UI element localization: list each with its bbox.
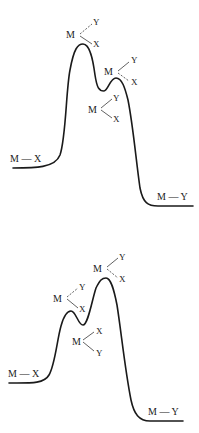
reaction-coordinate-curve-1 [13, 44, 193, 206]
product-label-2: M — Y [148, 406, 179, 417]
reactant-label-2: M — X [8, 368, 40, 379]
ts2b-bond-upper [107, 258, 118, 267]
ts2-upper-atom: Y [131, 55, 138, 65]
int-lower-atom: X [113, 114, 120, 124]
int-upper-atom: Y [113, 93, 120, 103]
intb-bond-upper [83, 332, 94, 340]
ts1-metal: M [66, 29, 75, 40]
energy-profile-2: M — X M — Y M Y X M Y X M X Y [8, 252, 183, 421]
ts2b-bond-lower [107, 269, 118, 278]
ts1-upper-atom: Y [93, 17, 100, 27]
energy-profile-1: M — X M — Y M Y X M Y X M Y X [10, 17, 193, 206]
ts1-bond-lower [80, 36, 92, 44]
intermediate-label-2: M X Y [72, 326, 103, 358]
intermediate-label: M Y X [88, 93, 120, 124]
intb-metal: M [72, 336, 81, 347]
reactant-label-1: M — X [10, 153, 42, 164]
product-label-1: M — Y [157, 191, 188, 202]
ts1b-metal: M [53, 293, 62, 304]
intb-upper-atom: X [96, 326, 103, 336]
ts2-lower-atom: X [131, 77, 138, 87]
ts2b-metal: M [93, 263, 102, 274]
ts1b-bond-upper [67, 288, 78, 297]
ts1-bond-upper [80, 24, 92, 34]
transition-state-1-label-2: M Y X [53, 282, 86, 314]
ts1b-upper-atom: Y [79, 282, 86, 292]
ts2-metal: M [104, 66, 113, 77]
int-bond-lower [101, 110, 112, 118]
intb-bond-lower [83, 342, 94, 351]
ts1b-lower-atom: X [79, 304, 86, 314]
intb-lower-atom: Y [96, 348, 103, 358]
ts1-lower-atom: X [93, 39, 100, 49]
ts2b-upper-atom: Y [119, 252, 126, 262]
ts2-bond-upper [118, 62, 129, 71]
int-metal: M [88, 104, 97, 115]
int-bond-upper [101, 99, 112, 108]
ts1b-bond-lower [67, 299, 78, 308]
energy-diagrams: M — X M — Y M Y X M Y X M Y X [0, 0, 199, 433]
ts2b-lower-atom: X [119, 274, 126, 284]
